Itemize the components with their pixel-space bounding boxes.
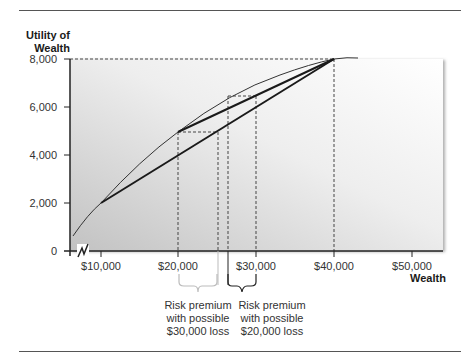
y-axis-title-line1: Utility of bbox=[20, 29, 70, 42]
risk-premium-note-30k: Risk premium with possible $30,000 loss bbox=[158, 299, 238, 338]
x-tick-label: $30,000 bbox=[226, 260, 286, 272]
y-tick-label: 8,000 bbox=[7, 53, 57, 65]
y-tick-label: 6,000 bbox=[7, 101, 57, 113]
y-ticks bbox=[64, 59, 70, 203]
y-axis-title: Utility of Wealth bbox=[20, 29, 70, 55]
brace-light-icon bbox=[179, 274, 217, 292]
y-tick-label: 2,000 bbox=[7, 197, 57, 209]
x-axis-title: Wealth bbox=[410, 272, 446, 284]
y-tick-label: 0 bbox=[7, 245, 57, 257]
axis-break-icon bbox=[77, 244, 89, 258]
x-tick-label: $10,000 bbox=[71, 260, 131, 272]
y-tick-label: 4,000 bbox=[7, 149, 57, 161]
x-tick-label: $50,000 bbox=[382, 260, 442, 272]
x-tick-label: $40,000 bbox=[304, 260, 364, 272]
risk-premium-note-20k: Risk premium with possible $20,000 loss bbox=[232, 299, 312, 338]
brace-dark-icon bbox=[228, 274, 256, 292]
x-tick-label: $20,000 bbox=[148, 260, 208, 272]
x-ticks bbox=[101, 251, 412, 257]
